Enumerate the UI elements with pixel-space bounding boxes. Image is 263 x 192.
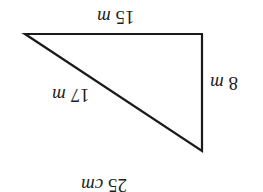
label-hypotenuse: 17 m: [52, 86, 89, 105]
label-top-side: 15 m: [97, 8, 134, 27]
triangle-shape: [0, 0, 263, 192]
label-right-side: 8 m: [210, 74, 238, 93]
triangle-diagram: 15 m 8 m 17 m 25 cm: [0, 0, 263, 192]
label-bottom-caption: 25 cm: [81, 176, 127, 192]
